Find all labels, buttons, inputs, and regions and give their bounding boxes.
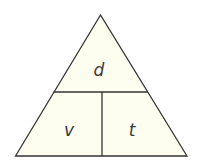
bottom-left-label-v: v xyxy=(64,120,75,140)
top-label-d: d xyxy=(94,60,105,80)
formula-triangle-diagram: d v t xyxy=(0,0,201,162)
triangle-outline xyxy=(16,15,188,156)
